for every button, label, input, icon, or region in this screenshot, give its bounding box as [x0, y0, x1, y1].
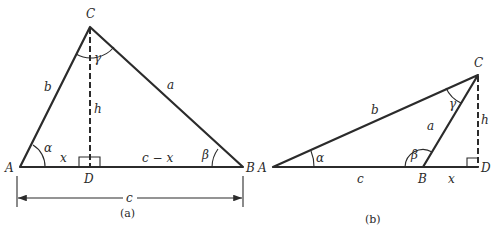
- vertex-label-C-a: C: [86, 7, 95, 21]
- angle-label-gamma-b: γ: [449, 97, 457, 111]
- vertex-label-A-a: A: [4, 161, 14, 175]
- vertex-label-D-a: D: [83, 172, 94, 186]
- angle-label-beta-b: β: [410, 148, 418, 162]
- dimension-label-c: c: [126, 191, 133, 205]
- right-angle-mark-b: [467, 158, 477, 167]
- vertex-label-A-b: A: [257, 161, 267, 175]
- angle-beta-arc-a: [212, 149, 218, 167]
- angle-alpha-arc-b: [311, 151, 314, 167]
- segment-label-c-minus-x: c − x: [142, 151, 173, 165]
- caption-b: (b): [365, 213, 381, 226]
- angle-label-beta-a: β: [201, 148, 209, 162]
- caption-a: (a): [120, 207, 135, 220]
- vertex-label-B-a: B: [245, 161, 255, 175]
- side-label-a-b: a: [427, 119, 434, 133]
- side-label-b-a: b: [44, 80, 52, 94]
- triangle-b: [273, 75, 478, 167]
- side-label-h-a: h: [94, 102, 102, 116]
- vertex-label-B-b: B: [417, 172, 427, 186]
- diagram-canvas: C A B D b a h x c − x α β γ c (a) C A B …: [0, 0, 492, 232]
- side-label-h-b: h: [481, 113, 489, 127]
- side-label-a-a: a: [167, 78, 174, 92]
- triangle-a: [20, 27, 243, 167]
- figure-a: C A B D b a h x c − x α β γ c (a): [4, 7, 255, 220]
- segment-label-x-a: x: [60, 151, 67, 165]
- angle-label-alpha-b: α: [316, 151, 324, 165]
- side-label-b-b: b: [371, 103, 379, 117]
- angle-label-gamma-a: γ: [94, 51, 102, 65]
- angle-label-alpha-a: α: [44, 141, 52, 155]
- vertex-label-C-b: C: [474, 56, 483, 70]
- segment-label-x-b: x: [448, 172, 455, 186]
- side-label-c-b: c: [357, 172, 364, 186]
- vertex-label-D-b: D: [480, 161, 491, 175]
- figure-b: C A B D b a h c x α β γ (b): [257, 56, 491, 226]
